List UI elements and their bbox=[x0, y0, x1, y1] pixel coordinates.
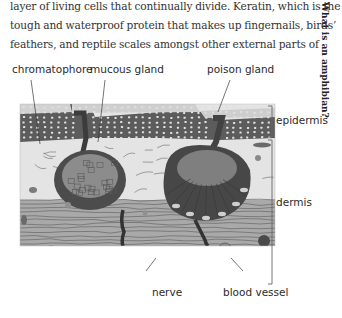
epidermal-cell bbox=[135, 116, 137, 118]
nerve-fibre bbox=[122, 210, 124, 246]
epidermal-cell bbox=[120, 137, 122, 139]
epidermal-cell bbox=[29, 111, 31, 113]
epidermal-cell bbox=[156, 126, 158, 128]
epidermal-cell bbox=[219, 111, 221, 113]
epidermal-cell bbox=[226, 127, 228, 129]
epidermal-cell bbox=[246, 111, 248, 113]
epidermal-cell bbox=[114, 117, 116, 119]
epidermal-cell bbox=[239, 132, 241, 134]
epidermal-cell bbox=[247, 127, 249, 129]
epidermal-cell bbox=[135, 136, 137, 138]
nerve-cross-section bbox=[258, 235, 270, 247]
epidermal-cell bbox=[205, 127, 207, 129]
epidermal-cell bbox=[170, 117, 172, 119]
epidermal-cell bbox=[183, 112, 185, 114]
epidermal-cell bbox=[163, 132, 165, 134]
gland-nucleus bbox=[232, 202, 240, 206]
epidermal-cell bbox=[226, 121, 228, 123]
epidermal-cell bbox=[253, 122, 255, 124]
epidermal-cell bbox=[23, 137, 25, 139]
epidermal-cell bbox=[120, 116, 122, 118]
epidermal-cell bbox=[100, 131, 102, 133]
epidermal-cell bbox=[268, 122, 270, 124]
epidermal-cell bbox=[162, 136, 164, 138]
blood-vessel-leader bbox=[231, 258, 243, 271]
nerve-cross-section bbox=[140, 253, 152, 265]
blood-cell bbox=[46, 255, 49, 258]
epidermal-cell bbox=[72, 132, 74, 134]
epidermal-cell bbox=[253, 112, 255, 114]
epidermal-cell bbox=[177, 127, 179, 129]
epidermal-cell bbox=[107, 122, 109, 124]
epidermal-cell bbox=[44, 107, 46, 109]
epidermal-cell bbox=[260, 111, 262, 113]
epidermal-cell bbox=[240, 137, 242, 139]
epidermal-cell bbox=[205, 131, 207, 133]
epidermal-cell bbox=[176, 132, 178, 134]
poison-gland-center bbox=[177, 150, 237, 186]
epidermal-cell bbox=[93, 106, 95, 108]
epidermal-cell bbox=[72, 127, 74, 129]
label-dermis: dermis bbox=[276, 196, 312, 208]
epidermal-cell bbox=[261, 106, 263, 108]
epidermal-cell bbox=[177, 111, 179, 113]
epidermal-cell bbox=[190, 106, 192, 108]
blood-vessel-cross-section bbox=[42, 246, 60, 264]
gland-nucleus bbox=[218, 212, 226, 216]
epidermal-cell bbox=[233, 106, 235, 108]
epidermal-cell bbox=[156, 107, 158, 109]
blood-cell bbox=[220, 246, 223, 249]
epidermal-cell bbox=[198, 126, 200, 128]
epidermal-cell bbox=[57, 106, 59, 108]
epidermal-cell bbox=[148, 126, 150, 128]
epidermal-cell bbox=[142, 116, 144, 118]
epidermal-cell bbox=[232, 137, 234, 139]
epidermal-cell bbox=[240, 111, 242, 113]
epidermal-cell bbox=[106, 126, 108, 128]
epidermal-cell bbox=[176, 106, 178, 108]
epidermal-cell bbox=[23, 116, 25, 118]
epidermal-cell bbox=[232, 127, 234, 129]
epidermal-cell bbox=[170, 132, 172, 134]
epidermal-cell bbox=[198, 137, 200, 139]
epidermal-cell bbox=[50, 111, 52, 113]
chromatophore-cell bbox=[29, 187, 37, 193]
epidermal-cell bbox=[177, 122, 179, 124]
epidermal-cell bbox=[170, 126, 172, 128]
epidermal-cell bbox=[163, 126, 165, 128]
blood-cell bbox=[225, 250, 228, 253]
epidermal-cell bbox=[170, 111, 172, 113]
epidermal-cell bbox=[162, 106, 164, 108]
epidermal-cell bbox=[120, 121, 122, 123]
epidermal-cell bbox=[261, 122, 263, 124]
epidermal-cell bbox=[128, 116, 130, 118]
epidermal-cell bbox=[184, 121, 186, 123]
epidermal-cell bbox=[121, 107, 123, 109]
epidermal-cell bbox=[72, 112, 74, 114]
epidermal-cell bbox=[141, 106, 143, 108]
epidermal-cell bbox=[30, 121, 32, 123]
epidermal-cell bbox=[58, 132, 60, 134]
epidermal-cell bbox=[190, 131, 192, 133]
epidermal-cell bbox=[65, 107, 67, 109]
epidermal-cell bbox=[114, 126, 116, 128]
epidermal-cell bbox=[120, 132, 122, 134]
epidermal-cell bbox=[156, 116, 158, 118]
epidermal-cell bbox=[233, 122, 235, 124]
stratum-corneum bbox=[72, 104, 200, 113]
epidermal-cell bbox=[44, 111, 46, 113]
epidermal-cell bbox=[253, 136, 255, 138]
epidermal-cell bbox=[268, 107, 270, 109]
epidermal-cell bbox=[29, 136, 31, 138]
epidermal-cell bbox=[107, 136, 109, 138]
epidermal-cell bbox=[170, 122, 172, 124]
epidermal-cell bbox=[184, 137, 186, 139]
epidermal-cell bbox=[50, 127, 52, 129]
epidermal-cell bbox=[212, 111, 214, 113]
epidermal-cell bbox=[127, 127, 129, 129]
epidermal-cell bbox=[85, 106, 87, 108]
epidermal-cell bbox=[267, 112, 269, 114]
epidermal-cell bbox=[134, 122, 136, 124]
epidermal-cell bbox=[177, 116, 179, 118]
epidermal-cell bbox=[253, 106, 255, 108]
